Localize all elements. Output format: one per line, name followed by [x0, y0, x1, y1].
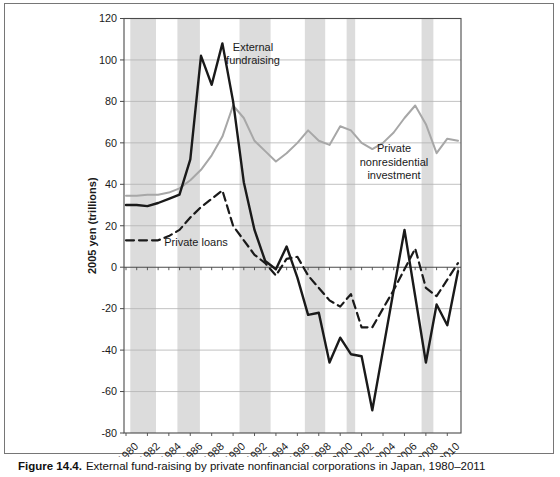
y-tick-label: -20: [101, 302, 117, 314]
y-axis-title: 2005 yen (trillions): [86, 177, 98, 274]
y-tick-label: 60: [105, 137, 117, 149]
series-label-external-fundraising: External: [233, 41, 273, 53]
series-label-private-loans: Private loans: [164, 236, 228, 248]
figure-page: 120100806040200-20-40-60-801980198219841…: [0, 0, 560, 477]
y-tick-label: -80: [101, 427, 117, 439]
series-label-external-fundraising: fundraising: [226, 54, 280, 66]
series-label-private-nonresidential-investment: nonresidential: [360, 156, 429, 168]
caption-label: Figure 14.4.: [18, 460, 82, 472]
series-line-external-fundraising: [126, 43, 458, 410]
y-tick-label: -60: [101, 385, 117, 397]
x-tick-label: 1980: [115, 440, 140, 457]
series-label-private-nonresidential-investment: investment: [367, 169, 420, 181]
y-tick-label: 0: [111, 261, 117, 273]
y-tick-label: 40: [105, 178, 117, 190]
y-tick-label: 80: [105, 95, 117, 107]
y-tick-label: -40: [101, 344, 117, 356]
series-label-private-nonresidential-investment: Private: [377, 142, 411, 154]
caption-text: External fund-raising by private nonfina…: [86, 460, 485, 472]
y-tick-label: 100: [99, 54, 117, 66]
figure-caption: Figure 14.4.External fund-raising by pri…: [18, 459, 548, 473]
chart-canvas: 120100806040200-20-40-60-801980198219841…: [0, 0, 560, 457]
y-tick-label: 20: [105, 220, 117, 232]
y-tick-label: 120: [99, 12, 117, 24]
